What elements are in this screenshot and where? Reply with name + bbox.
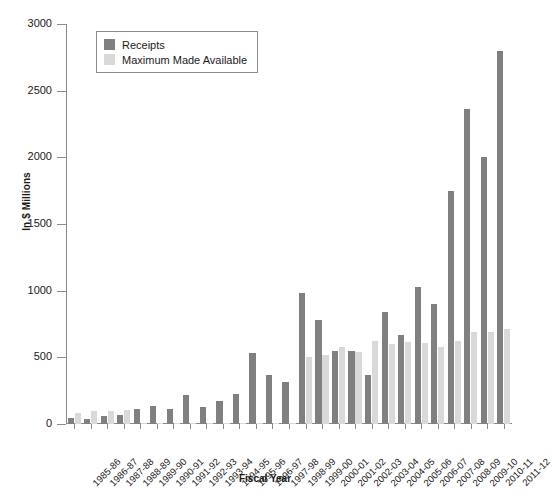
bar-group xyxy=(249,24,262,424)
x-tick xyxy=(339,424,340,429)
bar-maximum-made-available xyxy=(273,423,279,424)
y-tick: 1500 xyxy=(57,224,66,225)
y-tick: 2500 xyxy=(57,91,66,92)
bar-group xyxy=(382,24,395,424)
bar-group xyxy=(150,24,163,424)
plot-area: 050010001500200025003000 1985-861986-871… xyxy=(66,24,512,424)
bar-maximum-made-available xyxy=(471,332,477,424)
bar-receipts xyxy=(315,320,321,424)
bar-group xyxy=(266,24,279,424)
bar-group xyxy=(233,24,246,424)
x-tick xyxy=(355,424,356,429)
bar-receipts xyxy=(497,51,503,424)
bar-maximum-made-available xyxy=(438,347,444,424)
bar-receipts xyxy=(282,382,288,424)
x-tick xyxy=(504,424,505,429)
legend-swatch-icon xyxy=(104,39,115,50)
bar-maximum-made-available xyxy=(504,329,510,424)
x-tick xyxy=(140,424,141,429)
bar-group xyxy=(431,24,444,424)
legend-label: Maximum Made Available xyxy=(122,54,247,66)
bar-receipts xyxy=(117,415,123,424)
x-tick xyxy=(405,424,406,429)
legend-item[interactable]: Maximum Made Available xyxy=(104,52,247,67)
bar-maximum-made-available xyxy=(157,423,163,424)
bar-receipts xyxy=(183,395,189,424)
x-tick xyxy=(454,424,455,429)
x-tick xyxy=(157,424,158,429)
bar-group xyxy=(448,24,461,424)
y-tick: 1000 xyxy=(57,291,66,292)
bar-receipts xyxy=(84,419,90,424)
y-tick-label: 3000 xyxy=(28,17,52,29)
bar-receipts xyxy=(68,418,74,424)
bar-maximum-made-available xyxy=(339,347,345,424)
bar-receipts xyxy=(431,304,437,424)
x-tick xyxy=(124,424,125,429)
x-tick xyxy=(206,424,207,429)
bar-receipts xyxy=(299,293,305,424)
bar-group xyxy=(398,24,411,424)
x-tick xyxy=(471,424,472,429)
y-tick: 0 xyxy=(57,424,66,425)
bar-receipts xyxy=(134,409,140,424)
x-tick xyxy=(272,424,273,429)
bar-receipts xyxy=(365,375,371,424)
legend-item[interactable]: Receipts xyxy=(104,37,247,52)
bar-group xyxy=(464,24,477,424)
x-tick xyxy=(421,424,422,429)
bar-maximum-made-available xyxy=(372,341,378,424)
bar-group xyxy=(200,24,213,424)
bar-maximum-made-available xyxy=(322,355,328,424)
x-tick xyxy=(74,424,75,429)
bar-receipts xyxy=(348,351,354,424)
bar-receipts xyxy=(332,351,338,424)
bar-maximum-made-available xyxy=(289,423,295,424)
bar-maximum-made-available xyxy=(223,423,229,424)
bar-group xyxy=(216,24,229,424)
bar-group xyxy=(101,24,114,424)
x-tick xyxy=(256,424,257,429)
bar-maximum-made-available xyxy=(389,344,395,424)
bar-maximum-made-available xyxy=(488,332,494,424)
bar-receipts xyxy=(101,416,107,424)
y-tick-label: 2500 xyxy=(28,84,52,96)
bar-maximum-made-available xyxy=(306,357,312,424)
bar-maximum-made-available xyxy=(174,423,180,424)
y-tick-label: 1500 xyxy=(28,217,52,229)
bar-group xyxy=(167,24,180,424)
x-tick xyxy=(91,424,92,429)
y-tick-label: 1000 xyxy=(28,284,52,296)
bar-receipts xyxy=(167,409,173,424)
bar-maximum-made-available xyxy=(355,352,361,424)
chart-legend: ReceiptsMaximum Made Available xyxy=(96,31,258,73)
x-tick xyxy=(173,424,174,429)
legend-label: Receipts xyxy=(122,39,165,51)
bar-maximum-made-available xyxy=(91,411,97,424)
x-tick xyxy=(487,424,488,429)
bar-maximum-made-available xyxy=(108,411,114,424)
bar-group xyxy=(117,24,130,424)
x-tick xyxy=(372,424,373,429)
x-tick xyxy=(107,424,108,429)
bar-group xyxy=(348,24,361,424)
x-tick xyxy=(239,424,240,429)
x-tick xyxy=(388,424,389,429)
bar-maximum-made-available xyxy=(455,341,461,424)
bar-group xyxy=(134,24,147,424)
bar-receipts xyxy=(382,312,388,424)
bar-group xyxy=(481,24,494,424)
bar-maximum-made-available xyxy=(124,410,130,424)
bar-receipts xyxy=(266,375,272,424)
bar-receipts xyxy=(398,335,404,424)
x-tick xyxy=(438,424,439,429)
bar-group xyxy=(68,24,81,424)
bar-maximum-made-available xyxy=(405,342,411,424)
bar-receipts xyxy=(249,353,255,424)
y-tick: 500 xyxy=(57,357,66,358)
x-tick xyxy=(190,424,191,429)
bar-group xyxy=(299,24,312,424)
x-tick xyxy=(289,424,290,429)
bar-receipts xyxy=(481,157,487,424)
